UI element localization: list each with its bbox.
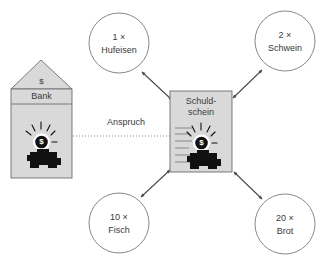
goods-name-schwein: Schwein bbox=[268, 43, 302, 53]
goods-circle-outline-brot bbox=[255, 194, 315, 254]
goods-circle-outline-hufeisen bbox=[89, 13, 149, 73]
goods-qty-fisch: 10 × bbox=[110, 212, 128, 222]
note-title-line1: Schuld- bbox=[186, 96, 217, 106]
bank-coin-glyph: $ bbox=[39, 137, 44, 146]
goods-qty-schwein: 2 × bbox=[279, 30, 292, 40]
note-title-line2: schein bbox=[188, 107, 214, 117]
goods-name-brot: Brot bbox=[277, 226, 294, 236]
goods-circle-hufeisen[interactable]: 1 × Hufeisen bbox=[89, 13, 149, 73]
goods-circle-brot[interactable]: 20 × Brot bbox=[255, 194, 315, 254]
goods-circle-schwein[interactable]: 2 × Schwein bbox=[255, 11, 315, 71]
goods-circle-outline-fisch bbox=[89, 193, 149, 253]
bank-label: Bank bbox=[31, 91, 52, 101]
goods-circle-outline-schwein bbox=[255, 11, 315, 71]
goods-name-fisch: Fisch bbox=[108, 225, 130, 235]
goods-circle-fisch[interactable]: 10 × Fisch bbox=[89, 193, 149, 253]
bank-roof-symbol: $ bbox=[39, 77, 44, 86]
goods-qty-hufeisen: 1 × bbox=[113, 32, 126, 42]
diagram-canvas: $ Bank $ Schuld- bbox=[0, 0, 324, 261]
goods-name-hufeisen: Hufeisen bbox=[101, 45, 137, 55]
shape-layer: $ Bank $ Schuld- bbox=[0, 0, 324, 261]
schuldschein-note[interactable]: Schuld- schein $ bbox=[170, 91, 232, 172]
note-coin-glyph: $ bbox=[199, 138, 204, 147]
claim-label: Anspruch bbox=[107, 117, 145, 127]
bank-building[interactable]: $ Bank $ bbox=[11, 60, 72, 178]
goods-qty-brot: 20 × bbox=[276, 213, 294, 223]
